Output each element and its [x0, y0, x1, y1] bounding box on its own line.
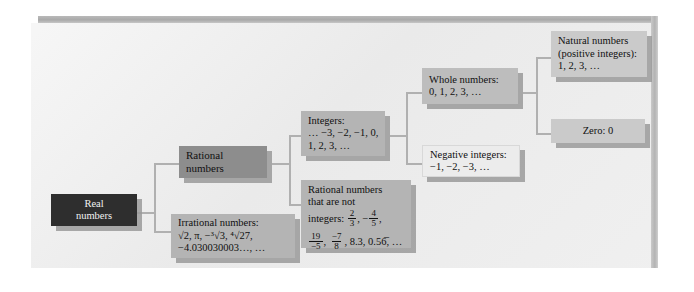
connector-rational-out: [272, 163, 290, 165]
rational-not-int-heading-3: integers:: [308, 213, 344, 224]
fraction-19-neg5: 19 −5: [309, 232, 323, 251]
diagram-canvas: Real numbers Rational numbers Irrational…: [0, 0, 694, 292]
node-whole-numbers[interactable]: Whole numbers: 0, 1, 2, 3, …: [422, 68, 518, 104]
node-negative-integers[interactable]: Negative integers: −1, −2, −3, …: [422, 145, 520, 177]
node-zero[interactable]: Zero: 0: [551, 119, 645, 143]
rational-numbers-line1: Rational: [186, 149, 260, 162]
fraction-neg7-8-numerator: −7: [330, 232, 344, 241]
fraction-neg7-8-denominator: 8: [332, 241, 341, 251]
comma-2: ,: [379, 213, 382, 224]
fraction-neg7-8: −7 8: [330, 232, 344, 251]
integers-examples-2: 1, 2, 3, …: [308, 140, 378, 152]
real-numbers-line1: Real: [58, 198, 130, 210]
fraction-4-5-denominator: 5: [369, 218, 378, 228]
real-numbers-line2: numbers: [58, 210, 130, 222]
rational-not-int-fraction-row-1: integers: 2 3 , − 4 5 ,: [308, 210, 404, 229]
connector-to-whole: [406, 92, 422, 94]
rational-not-int-decimals: 8.3, 0.56̅, …: [350, 236, 403, 247]
comma-4: ,: [344, 236, 347, 247]
connector-real-spine: [154, 163, 156, 231]
fraction-2-3-denominator: 3: [348, 218, 357, 228]
node-irrational-numbers[interactable]: Irrational numbers: √2, π, −³√3, ⁴√27, −…: [171, 214, 295, 258]
negative-integers-heading: Negative integers:: [430, 149, 512, 161]
connector-to-negative: [406, 163, 422, 165]
rational-numbers-line2: numbers: [186, 162, 260, 175]
irrational-examples-1: √2, π, −³√3, ⁴√27,: [178, 230, 288, 242]
whole-numbers-heading: Whole numbers:: [429, 74, 511, 86]
connector-to-integers: [289, 135, 301, 137]
node-rational-numbers[interactable]: Rational numbers: [179, 146, 267, 178]
comma-1: ,: [357, 213, 360, 224]
fraction-4-5: 4 5: [369, 209, 378, 228]
node-integers[interactable]: Integers: … −3, −2, −1, 0, 1, 2, 3, …: [301, 111, 385, 156]
natural-numbers-heading-2: (positive integers):: [558, 48, 640, 60]
panel-right-bar: [651, 16, 658, 268]
connector-to-rational: [154, 163, 179, 165]
natural-numbers-heading-1: Natural numbers: [558, 35, 640, 47]
negative-integers-examples: −1, −2, −3, …: [430, 161, 512, 173]
connector-to-natural: [536, 57, 551, 59]
fraction-19-neg5-numerator: 19: [309, 232, 322, 241]
comma-3: ,: [324, 236, 327, 247]
irrational-heading: Irrational numbers:: [178, 217, 288, 229]
zero-heading: Zero: 0: [558, 125, 638, 137]
node-natural-numbers[interactable]: Natural numbers (positive integers): 1, …: [551, 31, 647, 77]
connector-rational-spine: [289, 135, 291, 205]
connector-integers-out: [390, 135, 407, 137]
integers-heading: Integers:: [308, 115, 378, 127]
natural-numbers-examples: 1, 2, 3, …: [558, 60, 640, 72]
rational-not-int-heading-1: Rational numbers: [308, 184, 404, 196]
fraction-4-5-sign: −: [363, 213, 369, 224]
connector-to-zero: [536, 133, 551, 135]
fraction-2-3-numerator: 2: [348, 209, 357, 218]
fraction-19-neg5-denominator: −5: [309, 241, 323, 251]
connector-whole-out: [523, 92, 537, 94]
fraction-2-3: 2 3: [348, 209, 357, 228]
connector-integers-spine: [406, 92, 408, 164]
whole-numbers-examples: 0, 1, 2, 3, …: [429, 86, 511, 98]
node-real-numbers[interactable]: Real numbers: [51, 194, 137, 226]
irrational-examples-2: −4.030030003…, …: [178, 242, 288, 254]
connector-whole-spine: [536, 57, 538, 134]
fraction-4-5-numerator: 4: [369, 209, 378, 218]
rational-not-int-fraction-row-2: 19 −5 , −7 8 , 8.3, 0.56̅, …: [308, 233, 404, 252]
node-rational-not-integers[interactable]: Rational numbers that are not integers: …: [301, 180, 411, 248]
connector-to-rational-not-int: [289, 204, 301, 206]
connector-to-irrational: [154, 231, 171, 233]
rational-not-int-heading-2: that are not: [308, 196, 404, 208]
integers-examples-1: … −3, −2, −1, 0,: [308, 127, 378, 139]
panel-top-bar: [38, 16, 658, 23]
